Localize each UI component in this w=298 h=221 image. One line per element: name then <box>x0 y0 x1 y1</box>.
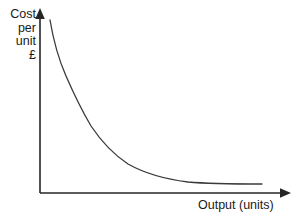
x-axis-label: Output (units) <box>198 199 274 213</box>
x-axis-arrowhead-icon <box>280 188 291 198</box>
y-axis-label-line-2: per <box>0 22 36 36</box>
cost-per-unit-chart: Cost per unit £ Output (units) <box>0 0 298 221</box>
cost-per-unit-curve <box>50 20 262 184</box>
y-axis-label-line-1: Cost <box>0 8 36 22</box>
chart-canvas <box>0 0 298 221</box>
y-axis-arrowhead-icon <box>35 8 45 19</box>
y-axis-label-currency-symbol: £ <box>0 49 36 63</box>
y-axis-label: Cost per unit £ <box>0 8 36 62</box>
y-axis-label-line-3: unit <box>0 35 36 49</box>
